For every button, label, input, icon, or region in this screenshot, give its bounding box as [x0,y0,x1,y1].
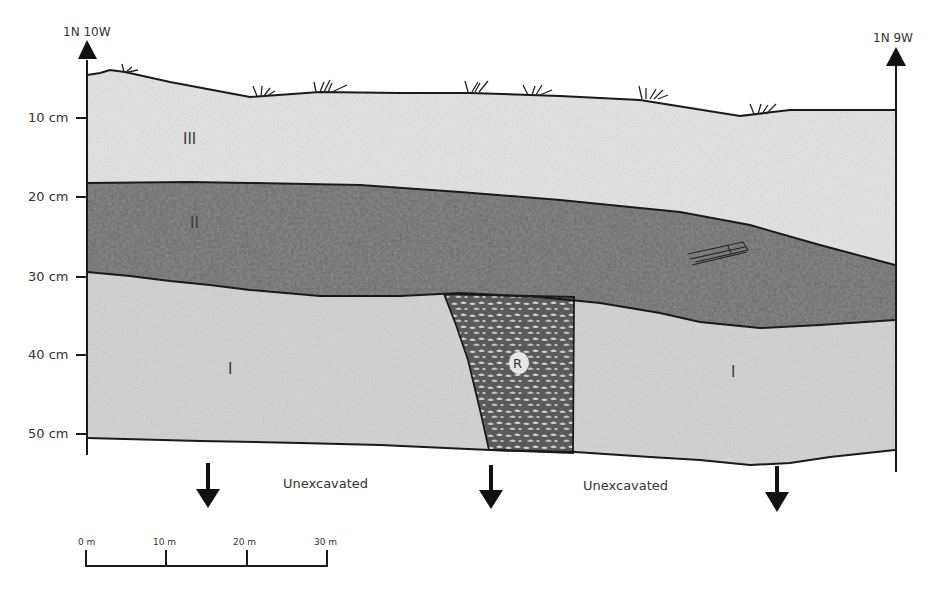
depth-ticks [76,118,87,434]
grass-icon [523,85,552,95]
layer-2-label: II [190,214,199,232]
depth-label-30: 30 cm [28,269,69,284]
scale-label-0: 0 m [78,537,95,547]
grass-icon [122,64,138,72]
scale-label-10: 10 m [153,537,176,547]
layer-1-left-label: I [228,360,232,378]
depth-label-10: 10 cm [28,110,69,125]
depth-label-40: 40 cm [28,347,69,362]
scale-label-30: 30 m [314,537,337,547]
grass-icon [639,86,668,99]
unexcavated-left-label: Unexcavated [283,476,368,491]
stratigraphic-profile: 1N 10W 1N 9W 10 cm 20 cm 30 cm 40 cm 50 … [0,0,949,596]
scale-label-20: 20 m [233,537,256,547]
scale-bar [86,550,327,567]
layer-3-label: III [183,130,196,148]
layer-1-right-label: I [731,363,735,381]
unexcavated-right-label: Unexcavated [583,478,668,493]
right-stake-arrow-icon [886,47,906,66]
feature-r-label: R [513,356,522,371]
down-arrow-icon [196,463,220,508]
left-stake-label: 1N 10W [63,25,111,39]
down-arrow-icon [479,465,503,509]
right-stake-label: 1N 9W [873,31,913,45]
depth-label-50: 50 cm [28,426,69,441]
grass-icon [314,80,347,92]
left-stake-arrow-icon [78,40,97,59]
grass-icon [465,81,488,92]
down-arrow-icon [765,466,789,512]
depth-label-20: 20 cm [28,189,69,204]
